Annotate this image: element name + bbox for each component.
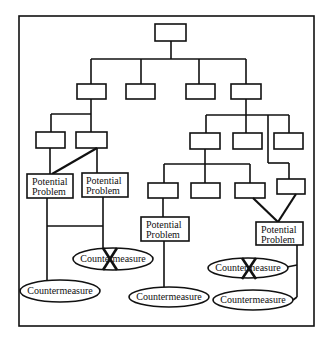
countermeasure-label: Countermeasure	[136, 291, 202, 302]
level1-node	[77, 84, 106, 99]
level2-node	[274, 133, 303, 149]
level3-node	[235, 183, 265, 198]
countermeasure-label: Countermeasure	[220, 294, 286, 305]
potential-problem-label: Problem	[146, 229, 180, 240]
countermeasure-label: Countermeasure	[27, 285, 93, 296]
level3-node	[191, 183, 220, 198]
level3-node	[277, 179, 305, 194]
level3-node	[148, 183, 178, 198]
level1-node	[231, 84, 261, 99]
potential-problem-label: Problem	[32, 186, 66, 197]
potential-problem-label: Problem	[261, 234, 295, 245]
root-node	[155, 24, 186, 41]
potential-problem-label: Problem	[86, 185, 120, 196]
level2-node	[36, 132, 65, 148]
level2-node	[190, 133, 220, 149]
level2-node	[233, 133, 262, 149]
level1-node	[126, 84, 155, 99]
fault-tree-diagram: Potential Problem Potential Problem Coun…	[0, 0, 332, 344]
level2-node	[76, 132, 107, 148]
level1-node	[186, 84, 215, 99]
